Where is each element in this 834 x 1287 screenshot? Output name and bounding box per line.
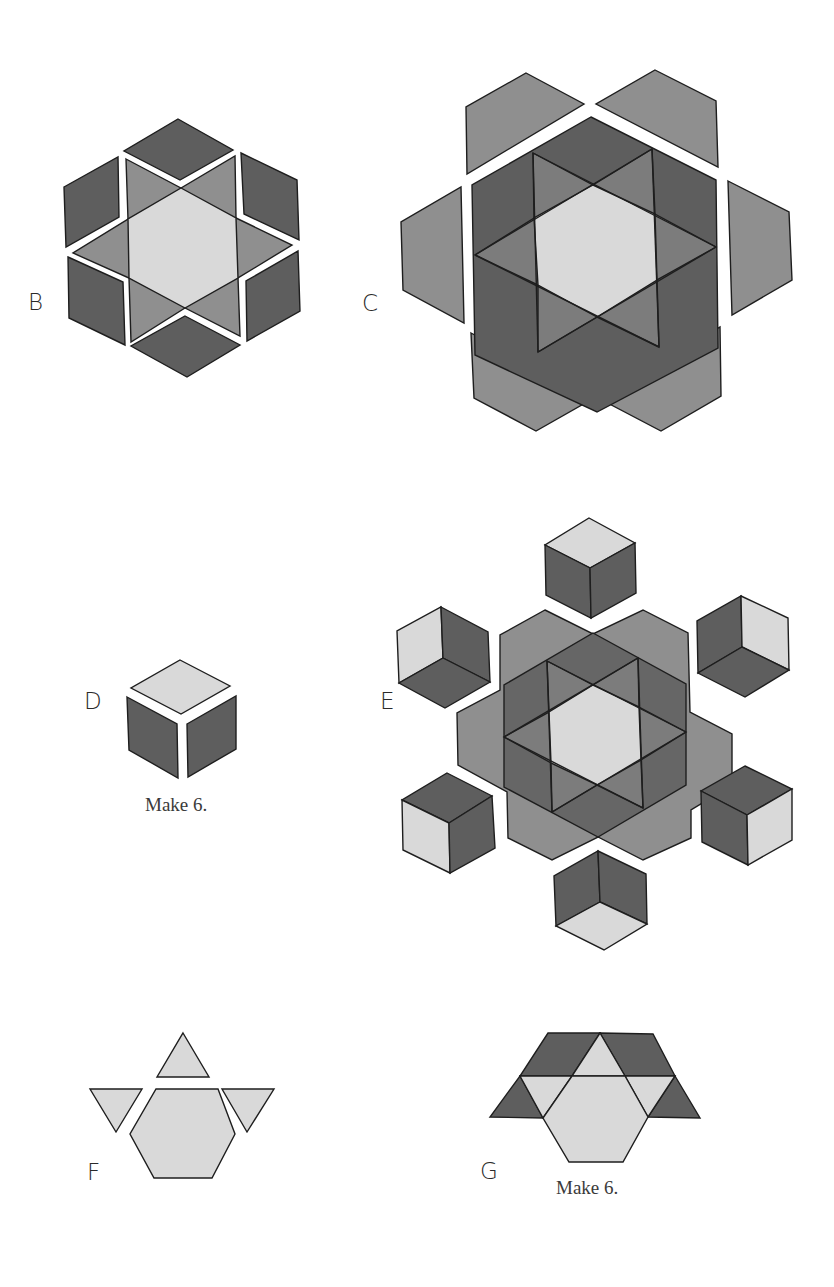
d-caption: Make 6. (145, 794, 207, 815)
e-cube-top-left (397, 607, 490, 708)
d-label: D (84, 688, 102, 714)
step-b: B (28, 119, 300, 377)
c-piece-right (728, 181, 792, 315)
g-label: G (480, 1158, 498, 1184)
step-g: G Make 6. (480, 1033, 700, 1198)
c-piece-left (401, 187, 464, 323)
e-label: E (380, 688, 395, 714)
step-d: D Make 6. (84, 660, 236, 815)
step-c: C (362, 70, 792, 431)
b-label: B (28, 289, 43, 315)
g-caption: Make 6. (556, 1177, 618, 1198)
e-cube-bottom-left (402, 773, 495, 873)
f-top-triangle (157, 1033, 209, 1077)
d-top-diamond (131, 660, 230, 714)
e-cube-top-right (697, 596, 789, 697)
c-label: C (362, 290, 378, 316)
d-right-diamond (187, 696, 236, 777)
step-e: E (380, 518, 792, 950)
e-cube-bottom (554, 851, 647, 950)
e-cube-top (545, 518, 636, 618)
step-f: F (87, 1033, 274, 1185)
quilt-diagram: B C D Make 6. (0, 0, 834, 1287)
f-label: F (87, 1159, 100, 1185)
f-hexagon (130, 1089, 235, 1178)
